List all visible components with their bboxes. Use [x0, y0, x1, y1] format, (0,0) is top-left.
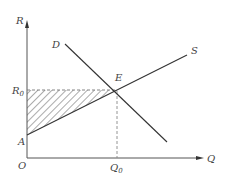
r0-label: R0 — [11, 85, 25, 98]
supply-label: S — [191, 45, 198, 56]
x-axis-arrow-icon — [196, 156, 204, 160]
q0-label: Q0 — [110, 162, 123, 175]
y-axis-arrow-icon — [25, 20, 29, 28]
intercept-label: A — [17, 136, 25, 147]
demand-label: D — [51, 39, 60, 50]
y-axis-label: R — [15, 15, 24, 26]
supply-demand-diagram: R Q O S D E A R0 Q0 — [0, 0, 226, 187]
equilibrium-label: E — [114, 72, 123, 83]
origin-label: O — [18, 160, 26, 171]
x-axis-label: Q — [207, 153, 215, 164]
